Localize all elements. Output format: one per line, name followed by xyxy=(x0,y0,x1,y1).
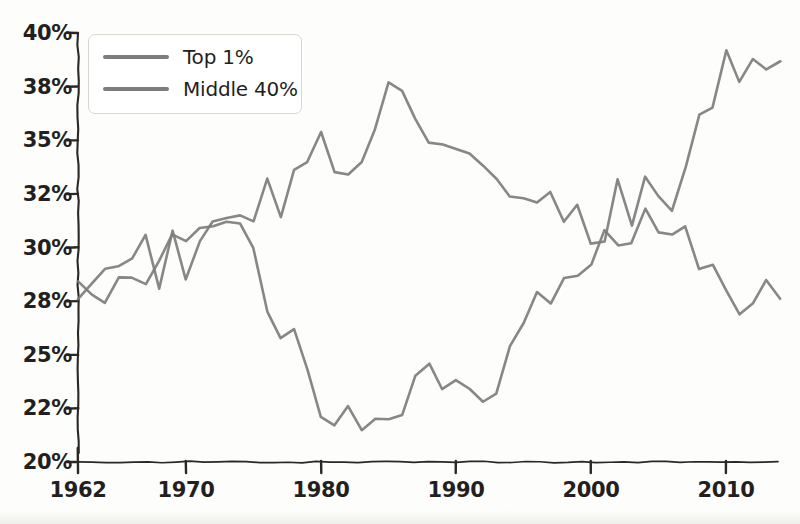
x-axis-tick-label: 1970 xyxy=(157,478,214,502)
x-axis-tick-label: 2010 xyxy=(697,478,754,502)
y-axis-tick-label: 30% xyxy=(23,236,72,260)
legend-label-top-1: Top 1% xyxy=(183,45,254,69)
x-axis-tick-label: 2000 xyxy=(562,478,619,502)
y-axis-tick-label: 38% xyxy=(23,75,72,99)
legend-item-top-1: Top 1% xyxy=(103,44,254,70)
x-axis-tick-label: 1962 xyxy=(49,478,106,502)
x-axis-tick-label: 1990 xyxy=(427,478,484,502)
chart-container: 40%38%35%32%30%28%25%22%20% 196219701980… xyxy=(0,0,800,524)
y-axis-tick-label: 28% xyxy=(23,289,72,313)
legend-swatch-top-1 xyxy=(103,55,169,59)
y-axis-tick-label: 35% xyxy=(23,128,72,152)
page-edge-shadow xyxy=(0,510,800,524)
y-axis-line xyxy=(77,33,79,453)
y-axis-tick-label: 20% xyxy=(23,450,72,474)
y-axis-tick-label: 22% xyxy=(23,396,72,420)
chart-legend: Top 1% Middle 40% xyxy=(88,34,302,114)
x-axis-line xyxy=(78,461,778,463)
y-axis-tick-label: 32% xyxy=(23,182,72,206)
legend-swatch-middle-40 xyxy=(103,87,169,91)
y-axis-tick-label: 40% xyxy=(23,21,72,45)
y-axis-tick-label: 25% xyxy=(23,343,72,367)
series-line-top-1 xyxy=(78,209,780,431)
legend-item-middle-40: Middle 40% xyxy=(103,76,298,102)
x-axis-tick-label: 1980 xyxy=(292,478,349,502)
legend-label-middle-40: Middle 40% xyxy=(183,77,298,101)
